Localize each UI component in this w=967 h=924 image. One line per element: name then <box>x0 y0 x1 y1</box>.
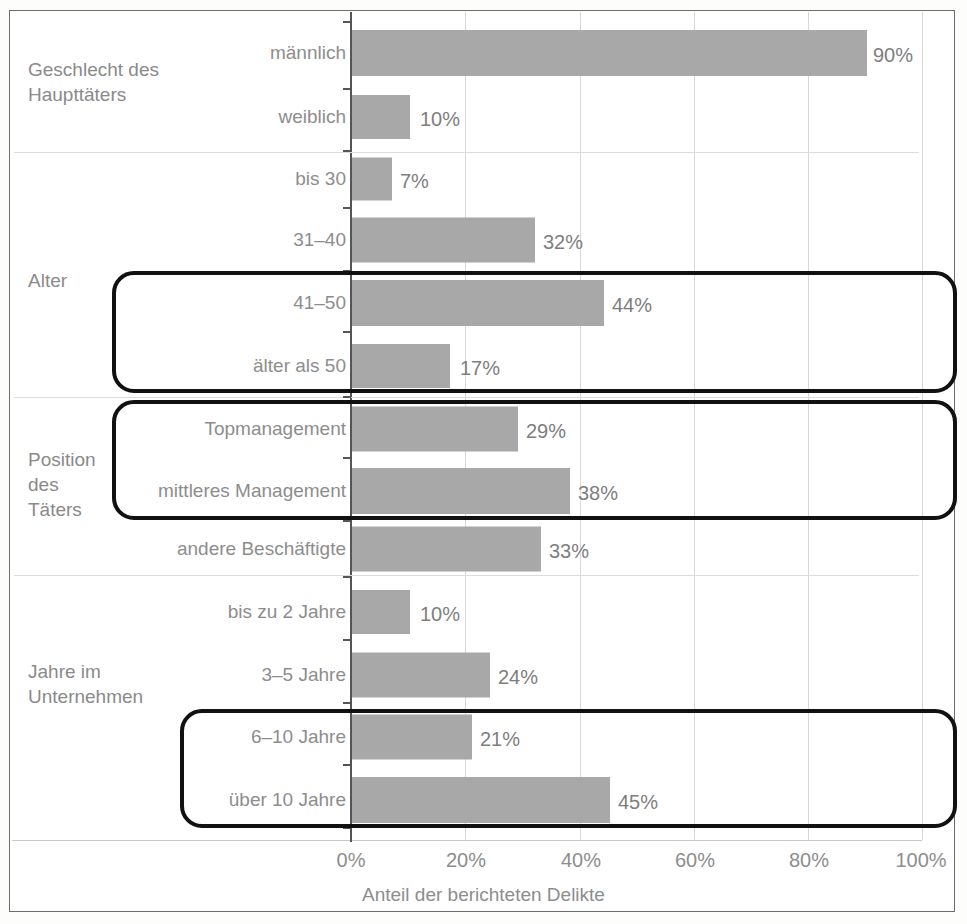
xtick-label-0: 0% <box>337 849 366 872</box>
bar-value-mittleres-management: 38% <box>578 482 618 505</box>
category-label-weiblich: weiblich <box>278 106 346 128</box>
bar-value-ueber-10-jahre: 45% <box>618 791 658 814</box>
bar-value-aelter-als-50: 17% <box>460 357 500 380</box>
bar-value-3-5-jahre: 24% <box>498 666 538 689</box>
category-label-maennlich: männlich <box>270 42 346 64</box>
group-title-position: Position des Täters <box>28 447 96 522</box>
category-label-3-5-jahre: 3–5 Jahre <box>261 664 346 686</box>
xtick-label-80: 80% <box>789 849 829 872</box>
xtick-label-100: 100% <box>895 849 946 872</box>
bar-value-31-40: 32% <box>543 231 583 254</box>
group-separator-2 <box>14 397 919 398</box>
bar-value-andere-beschaeftigte: 33% <box>549 540 589 563</box>
bar-andere-beschaeftigte <box>352 527 541 572</box>
bar-ueber-10-jahre <box>352 777 610 823</box>
bar-maennlich <box>352 30 867 76</box>
xtick-label-20: 20% <box>446 849 486 872</box>
bar-weiblich <box>352 95 410 139</box>
group-title-alter: Alter <box>28 268 67 293</box>
bar-value-41-50: 44% <box>612 294 652 317</box>
category-label-andere-beschaeftigte: andere Beschäftigte <box>177 538 346 560</box>
y-tick <box>343 270 351 272</box>
bar-3-5-jahre <box>352 653 490 698</box>
y-tick <box>343 396 351 398</box>
category-label-31-40: 31–40 <box>293 229 346 251</box>
y-tick <box>343 639 351 641</box>
bar-bis-30 <box>352 158 392 201</box>
bar-value-6-10-jahre: 21% <box>480 728 520 751</box>
y-tick <box>343 21 351 23</box>
gridline-60 <box>694 12 695 840</box>
gridline-40 <box>580 12 581 840</box>
gridline-100 <box>922 12 923 840</box>
category-label-6-10-jahre: 6–10 Jahre <box>251 726 346 748</box>
group-title-jahre: Jahre im Unternehmen <box>28 659 143 709</box>
bar-mittleres-management <box>352 468 570 514</box>
bar-topmanagement <box>352 407 518 452</box>
category-label-41-50: 41–50 <box>293 292 346 314</box>
y-tick <box>343 150 351 152</box>
y-tick <box>343 88 351 90</box>
y-tick <box>343 764 351 766</box>
y-tick <box>343 207 351 209</box>
bar-6-10-jahre <box>352 715 472 760</box>
bar-bis-zu-2-jahre <box>352 590 410 634</box>
category-label-ueber-10-jahre: über 10 Jahre <box>229 789 346 811</box>
group-title-geschlecht: Geschlecht des Haupttäters <box>28 57 159 107</box>
bar-value-bis-zu-2-jahre: 10% <box>420 603 460 626</box>
category-label-mittleres-management: mittleres Management <box>158 480 346 502</box>
category-label-aelter-als-50: älter als 50 <box>253 355 346 377</box>
y-tick <box>343 457 351 459</box>
x-axis-title: Anteil der berichteten Delikte <box>0 884 967 906</box>
chart-figure: Geschlecht des Haupttäters Alter Positio… <box>0 0 967 924</box>
y-tick <box>343 331 351 333</box>
bar-aelter-als-50 <box>352 344 450 388</box>
category-label-bis-zu-2-jahre: bis zu 2 Jahre <box>228 601 346 623</box>
bar-31-40 <box>352 218 535 263</box>
y-tick <box>343 702 351 704</box>
group-separator-1 <box>14 152 919 153</box>
bar-value-topmanagement: 29% <box>526 420 566 443</box>
plot-area: Geschlecht des Haupttäters Alter Positio… <box>0 0 967 924</box>
y-tick <box>343 827 351 829</box>
xtick-label-60: 60% <box>675 849 715 872</box>
gridline-80 <box>808 12 809 840</box>
x-axis-line <box>12 840 922 841</box>
bar-value-maennlich: 90% <box>873 44 913 67</box>
category-label-topmanagement: Topmanagement <box>204 418 346 440</box>
bar-value-weiblich: 10% <box>420 108 460 131</box>
xtick-label-40: 40% <box>561 849 601 872</box>
y-tick <box>343 520 351 522</box>
group-separator-3 <box>14 575 919 576</box>
y-tick <box>343 576 351 578</box>
bar-value-bis-30: 7% <box>400 170 429 193</box>
bar-41-50 <box>352 280 604 326</box>
category-label-bis-30: bis 30 <box>295 168 346 190</box>
